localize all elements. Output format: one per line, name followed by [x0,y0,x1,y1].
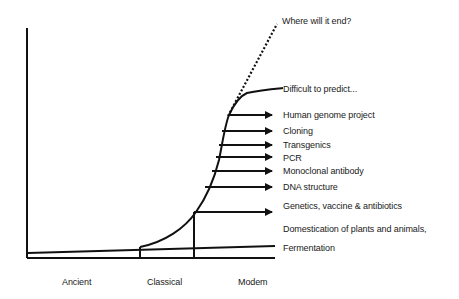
x-label-classical: Classical [147,277,182,287]
diagram-canvas [0,0,459,299]
x-label-modern: Modem [238,277,268,287]
label-fermentation: Fermentation [283,243,335,253]
label-transgenics: Transgenics [283,140,331,150]
x-label-ancient: Ancient [62,277,91,287]
label-where-will-it-end: Where will it end? [282,16,351,26]
fermentation-line [28,246,275,253]
label-genetics: Genetics, vaccine & antibiotics [283,201,402,211]
label-difficult-to-predict: Difficult to predict... [283,84,357,94]
label-cloning: Cloning [283,126,313,136]
label-pcr: PCR [283,153,302,163]
growth-curve [140,88,283,247]
label-monoclonal: Monoclonal antibody [283,166,364,176]
label-domestication: Domestication of plants and animals, [283,224,426,234]
label-dna-structure: DNA structure [283,182,338,192]
label-human-genome: Human genome project [283,110,375,120]
